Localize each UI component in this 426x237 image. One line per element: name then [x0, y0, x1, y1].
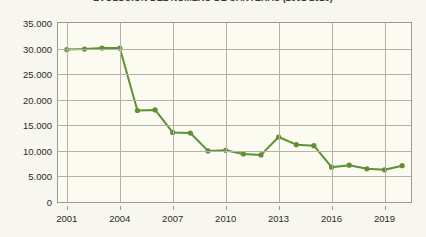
- x-axis-tick: [67, 206, 68, 210]
- data-point-marker: [135, 108, 140, 113]
- x-axis-tick: [120, 206, 121, 210]
- data-point-marker: [364, 166, 369, 171]
- y-axis-tick-label: 15.000: [23, 120, 52, 131]
- x-axis-tick-label: 2007: [162, 213, 183, 224]
- x-axis-tick-label: 2013: [268, 213, 289, 224]
- gridline-vertical: [173, 23, 174, 202]
- x-axis-tick: [226, 206, 227, 210]
- gridline-vertical: [279, 23, 280, 202]
- data-point-marker: [241, 151, 246, 156]
- gridline-horizontal: [58, 74, 411, 75]
- y-axis-labels: 05.00010.00015.00020.00025.00030.00035.0…: [0, 22, 52, 203]
- y-axis-tick-label: 30.000: [23, 43, 52, 54]
- gridline-vertical: [332, 23, 333, 202]
- x-axis-tick: [332, 206, 333, 210]
- x-axis-tick: [173, 206, 174, 210]
- gridline-horizontal: [58, 125, 411, 126]
- data-series-line: [58, 23, 411, 202]
- x-axis-tick-label: 2004: [109, 213, 130, 224]
- gridline-horizontal: [58, 100, 411, 101]
- gridline-horizontal: [58, 176, 411, 177]
- gridline-vertical: [385, 23, 386, 202]
- data-point-marker: [347, 163, 352, 168]
- y-axis-tick-label: 0: [47, 197, 52, 208]
- x-axis-tick-label: 2016: [321, 213, 342, 224]
- x-axis-tick-label: 2019: [374, 213, 395, 224]
- gridline-vertical: [67, 23, 68, 202]
- x-axis-tick: [279, 206, 280, 210]
- chart-title: EVOLUCIÓN DEL NÚMERO DE CANTERAS (2001-2…: [0, 0, 426, 3]
- chart-container: EVOLUCIÓN DEL NÚMERO DE CANTERAS (2001-2…: [0, 0, 426, 237]
- y-axis-tick-label: 20.000: [23, 94, 52, 105]
- x-axis-tick-label: 2010: [215, 213, 236, 224]
- x-axis-tick-label: 2001: [56, 213, 77, 224]
- y-axis-tick-label: 35.000: [23, 18, 52, 29]
- data-point-marker: [153, 107, 158, 112]
- plot-area: [57, 22, 412, 203]
- data-point-marker: [258, 152, 263, 157]
- data-point-marker: [294, 142, 299, 147]
- data-point-marker: [188, 130, 193, 135]
- gridline-horizontal: [58, 151, 411, 152]
- x-axis-labels: 2001200420072010201320162019: [57, 206, 412, 226]
- y-axis-tick-label: 10.000: [23, 145, 52, 156]
- gridline-vertical: [226, 23, 227, 202]
- y-axis-tick-label: 25.000: [23, 69, 52, 80]
- gridline-vertical: [120, 23, 121, 202]
- gridline-horizontal: [58, 49, 411, 50]
- data-point-marker: [400, 163, 405, 168]
- x-axis-tick: [385, 206, 386, 210]
- data-point-marker: [311, 143, 316, 148]
- y-axis-tick-label: 5.000: [28, 171, 52, 182]
